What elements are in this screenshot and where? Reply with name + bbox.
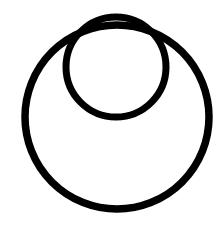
inner-circle [66,17,166,117]
nested-circles-diagram [0,0,217,234]
